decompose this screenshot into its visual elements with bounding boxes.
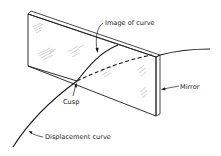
mirror-top-edge [28,11,160,57]
label-cusp-group: Cusp [63,83,79,107]
arrowhead-displacement-curve [29,131,33,134]
mirror-cusp-diagram: Image of curve Mirror Cusp Displacement … [0,0,221,156]
arrowhead-mirror [161,87,166,90]
label-mirror: Mirror [180,83,200,91]
label-displacement-curve-group: Displacement curve [29,131,111,141]
mirror-front-face [28,14,156,116]
arrowhead-image-of-curve [96,48,99,53]
label-displacement-curve: Displacement curve [45,133,111,141]
cusp-crossing-line [28,66,77,81]
label-image-of-curve: Image of curve [105,19,155,27]
curve-beyond-mirror [160,49,210,55]
mirror-glare-marks [33,23,147,98]
mirror-side-edge [156,55,160,116]
label-mirror-group: Mirror [161,83,200,91]
leader-mirror [163,86,179,89]
label-cusp: Cusp [63,98,79,106]
